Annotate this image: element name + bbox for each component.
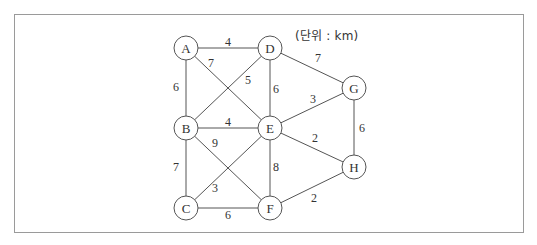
weight-label-b-f: 9 [212,136,218,150]
node-label: F [266,201,273,216]
weight-label-c-f: 6 [225,208,231,222]
node-label: E [266,121,274,136]
weight-label-e-h: 2 [312,131,318,145]
node-g: G [342,76,366,100]
node-label: G [349,81,358,96]
weight-label-a-b: 6 [173,80,179,94]
weight-label-e-f: 8 [273,160,279,174]
node-label: D [265,41,274,56]
weight-label-d-g: 7 [315,51,321,65]
weight-label-g-h: 6 [359,121,365,135]
node-h: H [342,155,366,179]
node-b: B [174,116,198,140]
node-f: F [258,196,282,220]
weight-label-a-d: 4 [225,35,231,49]
weight-label-b-c: 7 [173,160,179,174]
graph-canvas: 4675673649728362 ADGBEHCF [0,0,537,245]
node-e: E [258,116,282,140]
weight-label-a-e: 7 [208,56,214,70]
node-label: A [181,41,191,56]
edge-d-g [270,48,354,88]
node-label: H [349,160,358,175]
weight-label-f-h: 2 [311,191,317,205]
weight-label-d-e: 6 [273,82,279,96]
weight-label-b-e: 4 [225,115,231,129]
weight-label-g-e: 3 [310,92,316,106]
node-a: A [174,36,198,60]
weight-label-e-c: 3 [212,181,218,195]
node-label: B [182,121,191,136]
node-label: C [182,201,191,216]
node-d: D [258,36,282,60]
weight-label-d-b: 5 [245,73,251,87]
node-c: C [174,196,198,220]
